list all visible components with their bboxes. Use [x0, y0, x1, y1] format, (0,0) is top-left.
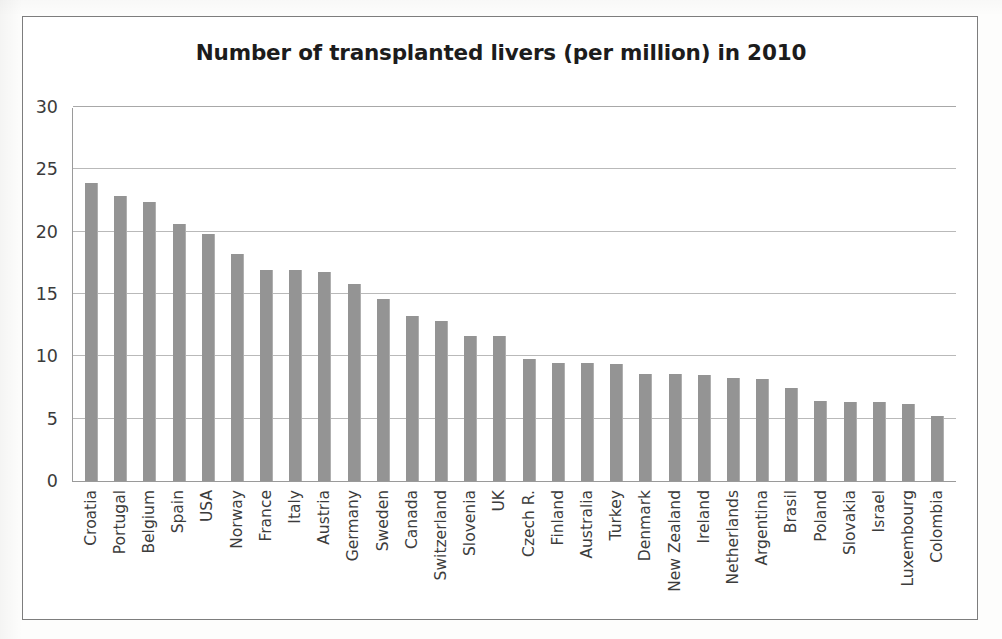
bar-slot: [923, 108, 952, 481]
x-label-slot: Canada: [397, 484, 426, 614]
x-tick-label-argentina: Argentina: [753, 490, 771, 566]
bar-slot: [456, 108, 485, 481]
x-label-slot: Switzerland: [426, 484, 455, 614]
y-tick-label-20: 20: [0, 222, 58, 242]
x-tick-label-france: France: [257, 490, 275, 542]
x-label-slot: Netherlands: [718, 484, 747, 614]
bar-slot: [602, 108, 631, 481]
bar-italy[interactable]: [289, 270, 302, 481]
x-tick-label-uk: UK: [490, 490, 508, 512]
x-label-slot: Finland: [543, 484, 572, 614]
chart-page: Number of transplanted livers (per milli…: [0, 0, 1002, 639]
bar-czech-r[interactable]: [523, 359, 536, 481]
x-tick-label-turkey: Turkey: [607, 490, 625, 540]
bar-poland[interactable]: [814, 401, 827, 481]
bar-usa[interactable]: [202, 234, 215, 481]
x-tick-label-belgium: Belgium: [140, 490, 158, 554]
x-tick-label-sweden: Sweden: [374, 490, 392, 551]
bar-finland[interactable]: [552, 363, 565, 481]
bar-slot: [573, 108, 602, 481]
x-label-slot: UK: [485, 484, 514, 614]
x-tick-label-austria: Austria: [315, 490, 333, 545]
bar-norway[interactable]: [231, 254, 244, 481]
bar-croatia[interactable]: [85, 183, 98, 481]
x-label-slot: Portugal: [105, 484, 134, 614]
x-tick-label-ireland: Ireland: [695, 490, 713, 544]
bar-slot: [77, 108, 106, 481]
plot-area: [72, 108, 956, 482]
x-label-slot: Turkey: [602, 484, 631, 614]
bar-slot: [748, 108, 777, 481]
bar-slovenia[interactable]: [464, 336, 477, 481]
bar-brasil[interactable]: [785, 388, 798, 482]
bar-slot: [835, 108, 864, 481]
x-tick-label-netherlands: Netherlands: [724, 490, 742, 584]
x-label-slot: France: [251, 484, 280, 614]
y-tick-label-30: 30: [0, 97, 58, 117]
bar-ireland[interactable]: [698, 375, 711, 481]
bar-austria[interactable]: [318, 272, 331, 481]
x-label-slot: Belgium: [134, 484, 163, 614]
x-tick-label-colombia: Colombia: [928, 490, 946, 563]
bar-slot: [515, 108, 544, 481]
bar-slot: [194, 108, 223, 481]
x-tick-label-usa: USA: [198, 490, 216, 522]
x-label-slot: Poland: [806, 484, 835, 614]
bar-israel[interactable]: [873, 402, 886, 481]
x-tick-label-slovakia: Slovakia: [841, 490, 859, 555]
x-tick-label-spain: Spain: [169, 490, 187, 533]
x-tick-label-croatia: Croatia: [82, 490, 100, 546]
x-label-slot: Brasil: [777, 484, 806, 614]
bar-canada[interactable]: [406, 316, 419, 481]
bar-argentina[interactable]: [756, 379, 769, 481]
x-label-slot: Austria: [310, 484, 339, 614]
x-label-slot: Germany: [339, 484, 368, 614]
x-label-slot: Italy: [280, 484, 309, 614]
bar-series: [73, 108, 956, 481]
bar-slot: [281, 108, 310, 481]
x-label-slot: Australia: [572, 484, 601, 614]
y-tick-label-15: 15: [0, 284, 58, 304]
x-tick-label-israel: Israel: [870, 490, 888, 532]
bar-slot: [106, 108, 135, 481]
bar-slot: [135, 108, 164, 481]
bar-portugal[interactable]: [114, 196, 127, 481]
bar-belgium[interactable]: [143, 202, 156, 481]
x-tick-label-portugal: Portugal: [111, 490, 129, 554]
bar-sweden[interactable]: [377, 299, 390, 481]
bar-uk[interactable]: [493, 336, 506, 481]
x-tick-label-germany: Germany: [344, 490, 362, 561]
x-tick-label-brasil: Brasil: [782, 490, 800, 533]
bar-slovakia[interactable]: [844, 402, 857, 481]
bar-slot: [544, 108, 573, 481]
y-tick-label-10: 10: [0, 346, 58, 366]
bar-switzerland[interactable]: [435, 321, 448, 481]
x-label-slot: Luxembourg: [894, 484, 923, 614]
bar-turkey[interactable]: [610, 364, 623, 481]
chart-title: Number of transplanted livers (per milli…: [0, 40, 1002, 65]
bar-slot: [340, 108, 369, 481]
bar-denmark[interactable]: [639, 374, 652, 481]
y-tick-label-0: 0: [0, 471, 58, 491]
x-tick-label-new-zealand: New Zealand: [666, 490, 684, 592]
x-label-slot: USA: [193, 484, 222, 614]
bar-germany[interactable]: [348, 284, 361, 481]
x-label-slot: Argentina: [748, 484, 777, 614]
x-tick-label-czech-r: Czech R.: [520, 490, 538, 557]
bar-spain[interactable]: [173, 224, 186, 481]
x-tick-label-italy: Italy: [286, 490, 304, 524]
x-label-slot: Colombia: [923, 484, 952, 614]
bar-slot: [369, 108, 398, 481]
bar-australia[interactable]: [581, 363, 594, 481]
x-label-slot: Slovenia: [456, 484, 485, 614]
bar-france[interactable]: [260, 270, 273, 481]
x-tick-label-australia: Australia: [578, 490, 596, 559]
bar-new-zealand[interactable]: [669, 374, 682, 481]
y-tick-label-25: 25: [0, 159, 58, 179]
bar-colombia[interactable]: [931, 416, 944, 481]
bar-slot: [777, 108, 806, 481]
x-label-slot: Croatia: [76, 484, 105, 614]
bar-netherlands[interactable]: [727, 378, 740, 481]
bar-luxembourg[interactable]: [902, 404, 915, 481]
bar-slot: [719, 108, 748, 481]
